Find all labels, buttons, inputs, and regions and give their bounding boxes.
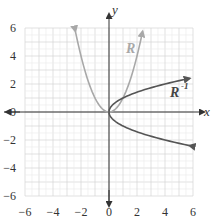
svg-text:−2: −2 [75,205,88,219]
curve-label-r-inverse: R [169,85,179,100]
svg-text:6: 6 [10,21,16,35]
svg-text:2: 2 [134,205,140,219]
curve-label-r: R [125,41,135,56]
svg-text:6: 6 [190,205,196,219]
svg-text:−4: −4 [47,205,60,219]
svg-text:−6: −6 [3,189,16,203]
svg-text:−4: −4 [3,161,16,175]
curve-label-r-inverse-sup: -1 [181,81,189,91]
svg-text:0: 0 [106,205,112,219]
graph: y x R R -1 −6 −4 −2 0 2 4 6 6 4 2 0 −2 −… [0,0,214,219]
svg-text:−6: −6 [19,205,32,219]
svg-text:2: 2 [10,77,16,91]
x-tick-labels: −6 −4 −2 0 2 4 6 [19,205,196,219]
svg-text:0: 0 [10,105,16,119]
x-axis-label: x [203,104,210,119]
svg-text:−2: −2 [3,133,16,147]
svg-text:4: 4 [162,205,168,219]
svg-text:4: 4 [10,49,16,63]
y-axis-label: y [110,2,118,17]
